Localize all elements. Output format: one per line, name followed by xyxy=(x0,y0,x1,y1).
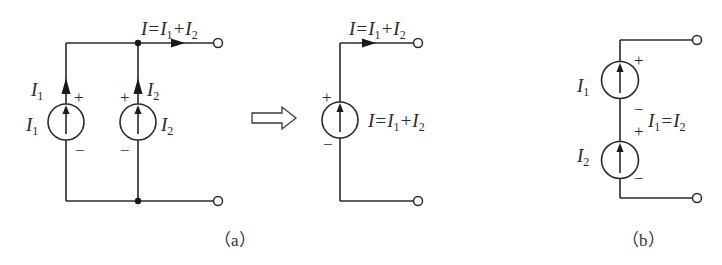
junction-dot-top xyxy=(135,40,141,46)
eq-source-minus: − xyxy=(323,135,333,154)
branch-1-current-label: I1 xyxy=(30,79,43,103)
terminal-bottom xyxy=(214,197,223,206)
caption-b: （b） xyxy=(622,231,665,250)
equivalent-current-source xyxy=(322,102,358,138)
b-current-source-1 xyxy=(602,62,639,99)
eq-source-label: I=I1+I2 xyxy=(367,110,425,134)
b-source-1-minus: − xyxy=(634,100,644,119)
b-source-2-plus: + xyxy=(634,122,644,141)
b-current-source-2 xyxy=(602,142,639,179)
b-terminal-bottom xyxy=(693,194,702,203)
branch-2-current-label: I2 xyxy=(146,79,159,103)
caption-a: （a） xyxy=(214,231,256,250)
b-source-1-plus: + xyxy=(634,51,644,70)
panel-a-parallel-circuit: I=I1+I2 I1 + I1 − I2 + I2 − xyxy=(25,18,223,206)
hollow-right-arrow-icon xyxy=(252,107,296,129)
b-source-2-minus: − xyxy=(634,169,644,188)
eq-terminal-top xyxy=(414,39,423,48)
branch-1-current-arrow-icon xyxy=(62,78,71,94)
b-source-1-label: I1 xyxy=(576,75,589,99)
b-source-2-label: I2 xyxy=(576,145,589,169)
junction-dot-bottom xyxy=(135,198,141,204)
source-1-minus: − xyxy=(75,141,85,160)
eq-output-current-label: I=I1+I2 xyxy=(348,18,406,42)
terminal-top xyxy=(214,39,223,48)
b-equality-label: I1=I2 xyxy=(647,110,685,134)
b-terminal-top xyxy=(693,36,702,45)
circuit-figure: I=I1+I2 I1 + I1 − I2 + I2 − I=I1+I2 + − … xyxy=(0,0,722,265)
panel-a-equivalent-circuit: I=I1+I2 + − I=I1+I2 xyxy=(322,18,425,206)
eq-source-plus: + xyxy=(322,88,332,107)
source-2-label: I2 xyxy=(160,114,173,138)
source-1-label: I1 xyxy=(25,114,38,138)
panel-b-series-circuit: I1 + − I2 + − I1=I2 xyxy=(576,36,702,203)
source-1-plus: + xyxy=(74,88,84,107)
source-2-plus: + xyxy=(120,88,130,107)
branch-2-current-arrow-icon xyxy=(134,78,143,94)
current-source-1 xyxy=(48,104,84,140)
current-source-2 xyxy=(120,104,156,140)
source-2-minus: − xyxy=(120,141,130,160)
output-current-label: I=I1+I2 xyxy=(140,18,198,42)
current-arrow-icon xyxy=(171,39,185,48)
eq-terminal-bottom xyxy=(414,197,423,206)
